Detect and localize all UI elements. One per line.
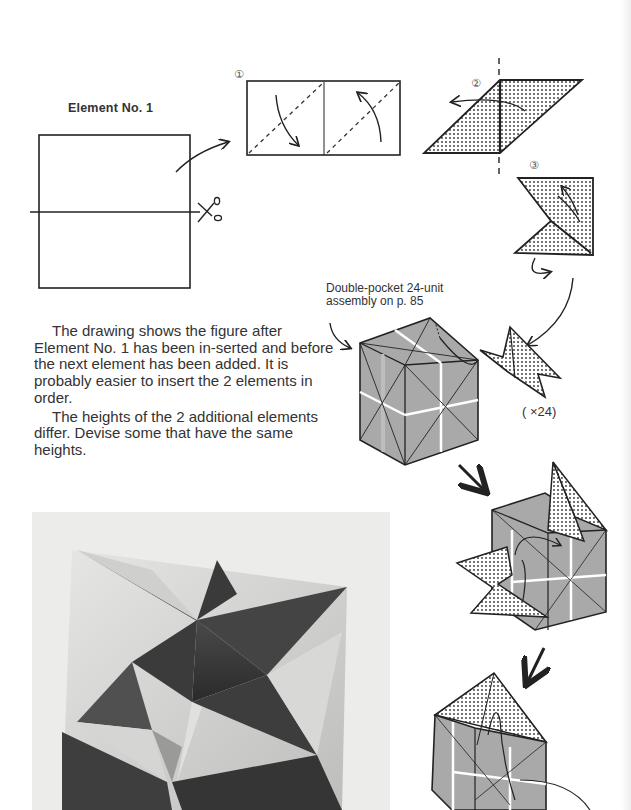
step-number-1: ① — [234, 68, 244, 81]
step-number-3: ③ — [529, 159, 539, 172]
unit-multiplier: ( ×24) — [522, 404, 556, 419]
paragraph-2: The heights of the 2 additional elements… — [34, 409, 334, 459]
step1-diagram — [247, 81, 400, 155]
assembly-caption-line2: assembly on p. 85 — [326, 295, 443, 308]
body-text: The drawing shows the figure after Eleme… — [34, 323, 334, 461]
arrow-to-step1 — [176, 142, 228, 172]
assembly-caption: Double-pocket 24-unit assembly on p. 85 — [326, 282, 443, 308]
paragraph-1: The drawing shows the figure after Eleme… — [34, 323, 334, 407]
model-photo-render — [32, 512, 390, 810]
cube-assembly-3 — [432, 673, 590, 810]
arrow-to-cube-2 — [459, 465, 485, 491]
scissors-icon — [198, 198, 222, 223]
paper-square — [30, 135, 200, 288]
arrow-to-cube-3 — [527, 648, 544, 683]
model-photo — [32, 512, 390, 810]
unit-piece — [480, 327, 560, 397]
step-number-2: ② — [471, 77, 481, 90]
arrow-to-unit — [528, 278, 573, 345]
step2-diagram — [424, 58, 582, 175]
cube-assembly-1 — [360, 318, 478, 465]
step3-diagram — [515, 178, 593, 273]
